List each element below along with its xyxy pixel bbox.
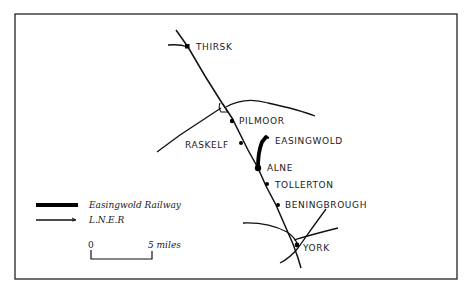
map-frame [15, 14, 457, 279]
lner-york-east-line [294, 228, 338, 240]
station-label-pilmoor: PILMOOR [239, 116, 284, 126]
station-label-alne: ALNE [267, 163, 293, 173]
station-pilmoor-marker [230, 119, 234, 123]
station-thirsk-marker [185, 44, 190, 49]
station-label-beningbrough: BENINGBROUGH [285, 200, 367, 210]
scale-bar [91, 250, 152, 259]
scale-label-start: 0 [88, 240, 94, 250]
lner-york-west-line [243, 223, 298, 246]
legend-label-lner: L.N.E.R [89, 215, 124, 225]
station-raskelf-marker [239, 141, 243, 145]
station-york-marker [295, 243, 300, 248]
lner-pilmoor-east-branch [226, 100, 315, 116]
station-alne-marker [255, 165, 261, 171]
station-tollerton-marker [265, 182, 269, 186]
easingwold-railway [258, 137, 266, 167]
station-beningbrough-marker [276, 203, 280, 207]
easingwold-terminus [266, 137, 269, 138]
station-label-york: YORK [303, 243, 330, 253]
station-label-easingwold: EASINGWOLD [275, 136, 343, 146]
railway-map [0, 0, 467, 292]
station-label-tollerton: TOLLERTON [275, 180, 334, 190]
pilmoor-junction-curve [219, 103, 228, 112]
lner-york-northeast-line [280, 209, 326, 263]
scale-label-end: 5 miles [148, 240, 181, 250]
station-label-thirsk: THIRSK [196, 42, 232, 52]
legend-label-easingwold-railway: Easingwold Railway [89, 200, 181, 210]
station-label-raskelf: RASKELF [185, 140, 229, 150]
